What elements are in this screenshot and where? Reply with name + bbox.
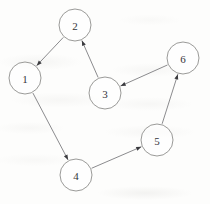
arrowhead-icon bbox=[174, 74, 178, 80]
graph-node-4[interactable]: 4 bbox=[60, 159, 92, 191]
graph-node-1[interactable]: 1 bbox=[9, 62, 41, 94]
node-label: 6 bbox=[180, 53, 186, 65]
edge-5-to-6 bbox=[162, 74, 178, 124]
diagram-canvas: 123456 bbox=[0, 0, 210, 204]
edge-3-to-2 bbox=[82, 41, 98, 78]
graph-node-2[interactable]: 2 bbox=[59, 9, 91, 41]
graph-node-5[interactable]: 5 bbox=[141, 124, 173, 156]
graph-node-3[interactable]: 3 bbox=[89, 77, 121, 109]
edge-4-to-5 bbox=[92, 147, 142, 169]
edge-1-to-4 bbox=[33, 93, 68, 160]
node-label: 2 bbox=[72, 20, 78, 32]
arrowhead-icon bbox=[136, 147, 142, 151]
arrowhead-icon bbox=[82, 41, 86, 47]
node-label: 4 bbox=[73, 170, 79, 182]
directed-graph: 123456 bbox=[0, 0, 210, 204]
arrowhead-icon bbox=[64, 154, 68, 160]
node-label: 3 bbox=[102, 88, 108, 100]
node-label: 1 bbox=[22, 73, 28, 85]
edge-2-to-1 bbox=[37, 37, 64, 65]
graph-node-6[interactable]: 6 bbox=[167, 42, 199, 74]
arrowhead-icon bbox=[121, 82, 127, 86]
edge-6-to-3 bbox=[121, 65, 168, 86]
node-label: 5 bbox=[154, 135, 160, 147]
nodes-layer: 123456 bbox=[9, 9, 199, 191]
